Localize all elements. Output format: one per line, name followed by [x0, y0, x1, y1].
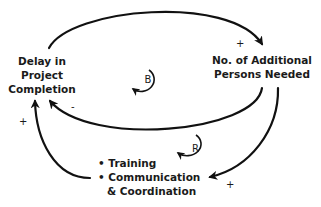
- link-persons-to-training: [210, 88, 278, 177]
- svg-text:Delay in: Delay in: [18, 55, 66, 67]
- link-delay-to-persons: [49, 12, 262, 48]
- node-additional-persons-needed: No. of Additional Persons Needed: [212, 54, 312, 80]
- svg-text:• Communication: • Communication: [98, 171, 200, 183]
- balancing-loop-icon: B: [133, 70, 154, 91]
- polarity-plus-top: +: [236, 38, 244, 49]
- svg-text:R: R: [192, 143, 199, 154]
- svg-text:Project: Project: [21, 69, 63, 81]
- polarity-plus-left: +: [19, 116, 27, 127]
- svg-text:B: B: [145, 74, 152, 85]
- polarity-plus-right: +: [226, 179, 234, 190]
- causal-loop-diagram: + - + + B R Delay in Project Completion …: [0, 0, 321, 207]
- link-persons-to-delay: [50, 88, 262, 129]
- svg-text:No. of Additional: No. of Additional: [212, 54, 312, 66]
- svg-text:Completion: Completion: [8, 83, 75, 95]
- svg-text:• Training: • Training: [98, 157, 156, 169]
- svg-text:& Coordination: & Coordination: [107, 185, 196, 197]
- reinforcing-loop-icon: R: [178, 135, 201, 156]
- node-delay-in-project-completion: Delay in Project Completion: [8, 55, 75, 95]
- polarity-minus: -: [71, 101, 75, 112]
- node-training-communication: • Training • Communication & Coordinatio…: [98, 157, 200, 197]
- svg-text:Persons Needed: Persons Needed: [214, 68, 310, 80]
